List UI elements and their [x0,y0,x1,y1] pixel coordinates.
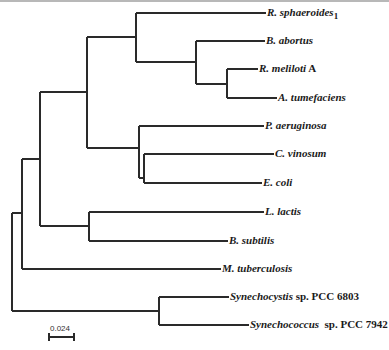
taxon-name: B. abortus [266,34,313,46]
taxon-name: L. lactis [265,205,301,217]
taxon-label-synechococcus: Synechococcus sp. PCC 7942 [250,319,388,330]
taxon-name: A. tumefaciens [278,91,346,103]
taxon-label-b-abortus: B. abortus [266,35,313,46]
taxon-label-r-meliloti: R. meliloti A [259,63,316,74]
taxon-name: Synechococcus [250,318,319,330]
taxon-label-e-coli: E. coli [263,177,292,188]
taxon-strain: A [306,62,316,74]
taxon-name: B. subtilis [229,234,274,246]
taxon-label-p-aeruginosa: P. aeruginosa [265,120,327,131]
taxon-name: R. sphaeroides [267,6,334,18]
taxon-label-synechocystis: Synechocystis sp. PCC 6803 [230,291,359,302]
taxon-label-b-subtilis: B. subtilis [229,235,274,246]
taxon-label-a-tumefaciens: A. tumefaciens [278,92,346,103]
taxon-label-r-sphaeroides: R. sphaeroides1 [267,7,338,22]
taxon-name: E. coli [263,176,292,188]
scale-bar-label: 0.024 [50,324,70,333]
taxon-label-l-lactis: L. lactis [265,206,301,217]
taxon-label-m-tuberculosis: M. tuberculosis [222,263,292,274]
taxon-name: C. vinosum [275,147,326,159]
taxon-label-c-vinosum: C. vinosum [275,148,326,159]
taxon-subscript: 1 [334,11,339,21]
scale-bar [49,333,74,341]
taxon-name: R. meliloti [259,62,306,74]
taxon-name: Synechocystis [230,290,293,302]
taxon-name: P. aeruginosa [265,119,327,131]
taxon-strain: sp. PCC 7942 [319,318,388,330]
taxon-strain: sp. PCC 6803 [293,290,359,302]
taxon-name: M. tuberculosis [222,262,292,274]
